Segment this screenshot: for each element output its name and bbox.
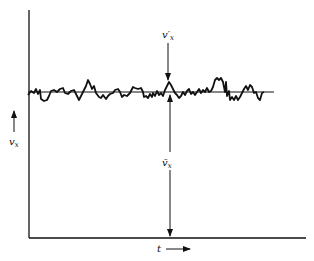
- x-axis-label: t: [157, 243, 162, 254]
- mean-label: v̄x: [162, 157, 172, 170]
- y-axis-label: vx: [9, 136, 19, 149]
- diagram-canvas: v′x v̄x vx t: [0, 0, 314, 261]
- fluctuation-label: v′x: [162, 29, 174, 42]
- fluctuating-velocity-trace: [28, 78, 264, 101]
